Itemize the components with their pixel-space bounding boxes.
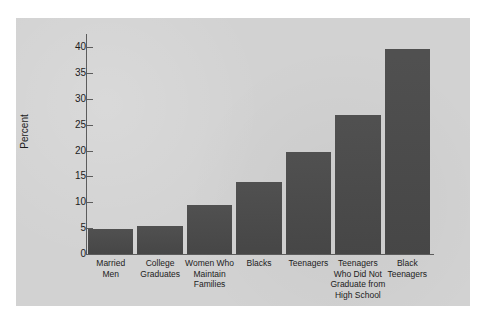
y-tick-label-row: 25 bbox=[56, 120, 86, 130]
category-label-line: Families bbox=[176, 279, 243, 290]
x-axis-line bbox=[86, 254, 434, 255]
y-tick-label-row: 10 bbox=[56, 197, 86, 207]
category-label-line: Graduate from bbox=[324, 279, 391, 290]
bar bbox=[187, 205, 232, 254]
category-label-line: High School bbox=[324, 290, 391, 301]
y-tick-mark bbox=[87, 125, 93, 126]
y-tick-mark bbox=[87, 151, 93, 152]
y-tick-mark bbox=[87, 99, 93, 100]
y-tick-label: 15 bbox=[62, 171, 86, 181]
category-label-line: Black bbox=[374, 258, 441, 269]
y-tick-mark bbox=[87, 73, 93, 74]
bar bbox=[236, 182, 281, 254]
bar-chart: Percent 0510152025303540 MarriedMenColle… bbox=[0, 0, 486, 325]
y-tick-mark bbox=[87, 254, 93, 255]
bar bbox=[385, 49, 430, 254]
y-tick-label: 40 bbox=[62, 42, 86, 52]
bar bbox=[335, 115, 380, 254]
y-tick-label: 10 bbox=[62, 197, 86, 207]
y-tick-mark bbox=[87, 202, 93, 203]
bar bbox=[88, 229, 133, 254]
y-tick-label-row: 20 bbox=[56, 146, 86, 156]
y-tick-label-row: 35 bbox=[56, 68, 86, 78]
y-tick-label: 20 bbox=[62, 146, 86, 156]
y-tick-label: 35 bbox=[62, 68, 86, 78]
bar bbox=[137, 226, 182, 254]
category-label-line: Maintain bbox=[176, 269, 243, 280]
y-tick-label: 30 bbox=[62, 94, 86, 104]
y-tick-label: 25 bbox=[62, 120, 86, 130]
y-tick-mark bbox=[87, 47, 93, 48]
y-tick-mark bbox=[87, 176, 93, 177]
x-axis-category-label: BlackTeenagers bbox=[374, 258, 441, 279]
bar bbox=[286, 152, 331, 254]
figure: Percent 0510152025303540 MarriedMenColle… bbox=[0, 0, 486, 325]
y-tick-label-row: 30 bbox=[56, 94, 86, 104]
y-tick-label-row: 15 bbox=[56, 171, 86, 181]
y-axis-title: Percent bbox=[19, 92, 30, 172]
category-label-line: Teenagers bbox=[374, 269, 441, 280]
y-tick-label: 5 bbox=[62, 223, 86, 233]
y-tick-label-row: 5 bbox=[56, 223, 86, 233]
y-tick-label-row: 40 bbox=[56, 42, 86, 52]
y-axis-line bbox=[86, 34, 87, 255]
